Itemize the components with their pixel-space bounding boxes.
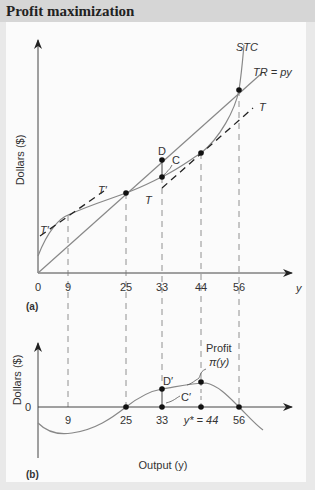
y-axis-label-b: Dollars ($) [11,355,23,406]
tr-line [38,73,262,273]
t-prime-tangent [40,191,104,236]
t-lower-label: T [145,194,153,206]
points-a [123,87,242,196]
point-c-prime-label: C′ [181,391,191,403]
c-prime-pointer [166,396,180,403]
tick-9: 9 [65,281,71,293]
tick-56: 56 [233,281,245,293]
y-axis-label-a: Dollars ($) [14,135,26,186]
tick-b-9: 9 [65,414,71,426]
chart-svg: Dollars ($) 0 9 25 33 44 56 y (a) STC TR… [0,0,315,490]
tick-44: 44 [195,281,207,293]
profit-label: Profit [206,342,232,354]
panel-b-label: (b) [26,469,39,480]
t-label: T [259,101,267,113]
tick-b-56: 56 [233,414,245,426]
x-axis-label-b: Output (y) [139,459,188,471]
panel-a-label: (a) [26,301,38,312]
optimum-label: y* = 44 [183,414,219,426]
x-axis-label-a: y [295,282,303,294]
zero-label: 0 [25,401,31,413]
t-prime-upper-label: T′ [98,184,108,196]
stc-label: STC [236,41,258,53]
profit-function-label: π(y) [209,356,230,368]
tick-25: 25 [120,281,132,293]
tr-label: TR = py [253,66,293,78]
tick-b-33: 33 [156,414,168,426]
tick-0: 0 [35,281,41,293]
panel-b: Dollars ($) 0 9 25 33 y* = 44 56 Output … [11,342,292,480]
point-c-label: C [172,154,180,166]
profit-curve [38,383,263,434]
point-d-prime-label: D′ [163,375,173,387]
panel-a: Dollars ($) 0 9 25 33 44 56 y (a) STC TR… [14,40,303,407]
t-prime-lower-label: T′ [40,224,50,236]
tick-b-25: 25 [120,414,132,426]
stc-curve [38,45,244,256]
tick-33: 33 [156,281,168,293]
point-d-label: D [158,145,166,157]
